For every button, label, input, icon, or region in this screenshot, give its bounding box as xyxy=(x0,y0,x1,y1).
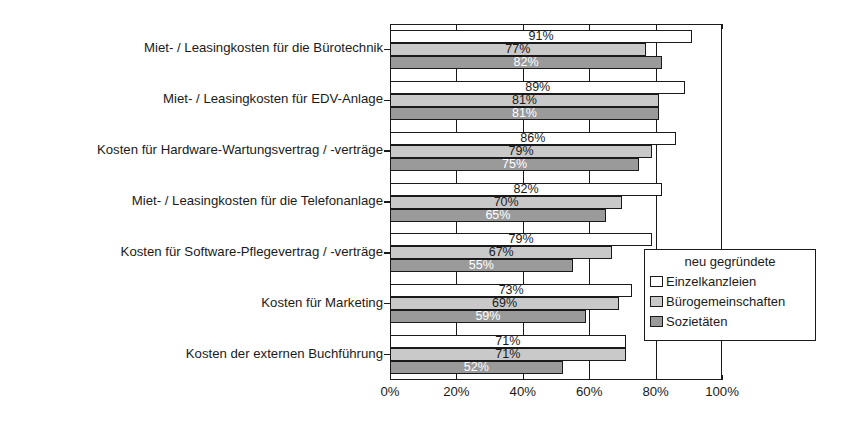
tick-bottom xyxy=(656,375,657,380)
tick-bottom xyxy=(523,375,524,380)
category-tick xyxy=(384,303,390,304)
bar xyxy=(390,183,662,196)
legend-swatch-icon xyxy=(650,316,663,327)
legend-item[interactable]: Bürogemeinschaften xyxy=(650,291,810,311)
legend-item-label: Bürogemeinschaften xyxy=(666,294,785,309)
category-tick xyxy=(384,252,390,253)
tick-top xyxy=(390,24,391,29)
category-label: Kosten für Marketing xyxy=(0,295,383,310)
category-label: Miet- / Leasingkosten für die Bürotechni… xyxy=(0,40,383,55)
legend-item-label: Sozietäten xyxy=(666,314,727,329)
bar xyxy=(390,335,626,348)
category-tick xyxy=(384,150,390,151)
x-axis-tick-label: 100% xyxy=(705,384,739,399)
tick-bottom xyxy=(722,375,723,380)
tick-top xyxy=(456,24,457,29)
category-tick xyxy=(384,201,390,202)
legend-items: EinzelkanzleienBürogemeinschaftenSozietä… xyxy=(650,271,810,331)
bar-chart: 91%77%82%89%81%81%86%79%75%82%70%65%79%6… xyxy=(0,0,849,444)
category-tick xyxy=(384,100,390,101)
x-axis-tick-label: 40% xyxy=(510,384,536,399)
bar xyxy=(390,145,652,158)
bar xyxy=(390,107,659,120)
category-label: Miet- / Leasingkosten für die Telefonanl… xyxy=(0,193,383,208)
legend-item-label: Einzelkanzleien xyxy=(666,274,756,289)
legend-swatch-icon xyxy=(650,296,663,307)
tick-bottom xyxy=(456,375,457,380)
x-axis-tick-label: 60% xyxy=(576,384,602,399)
category-tick xyxy=(384,354,390,355)
legend-item[interactable]: Einzelkanzleien xyxy=(650,271,810,291)
x-axis-tick-label: 0% xyxy=(380,384,399,399)
bar xyxy=(390,284,632,297)
category-tick xyxy=(384,49,390,50)
category-label: Kosten für Software-Pflegevertrag / -ver… xyxy=(0,244,383,259)
tick-top xyxy=(722,24,723,29)
tick-bottom xyxy=(589,375,590,380)
bar xyxy=(390,233,652,246)
bar xyxy=(390,259,573,272)
bar xyxy=(390,56,662,69)
x-axis-tick-label: 80% xyxy=(642,384,668,399)
legend-item[interactable]: Sozietäten xyxy=(650,311,810,331)
bar xyxy=(390,94,659,107)
bar xyxy=(390,81,685,94)
bar xyxy=(390,297,619,310)
tick-top xyxy=(656,24,657,29)
bar xyxy=(390,310,586,323)
bar xyxy=(390,158,639,171)
category-label: Kosten der externen Buchführung xyxy=(0,346,383,361)
bar xyxy=(390,348,626,361)
tick-top xyxy=(523,24,524,29)
bar xyxy=(390,361,563,374)
bar xyxy=(390,209,606,222)
legend-title: neu gegründete xyxy=(650,254,810,269)
bar xyxy=(390,132,676,145)
bar xyxy=(390,30,692,43)
bar xyxy=(390,246,612,259)
tick-bottom xyxy=(390,375,391,380)
bar xyxy=(390,196,622,209)
legend-swatch-icon xyxy=(650,276,663,287)
legend: neu gegründete EinzelkanzleienBürogemein… xyxy=(644,249,816,341)
x-axis-tick-label: 20% xyxy=(443,384,469,399)
tick-top xyxy=(589,24,590,29)
category-label: Kosten für Hardware-Wartungsvertrag / -v… xyxy=(0,142,383,157)
category-label: Miet- / Leasingkosten für EDV-Anlage xyxy=(0,91,383,106)
bar xyxy=(390,43,646,56)
